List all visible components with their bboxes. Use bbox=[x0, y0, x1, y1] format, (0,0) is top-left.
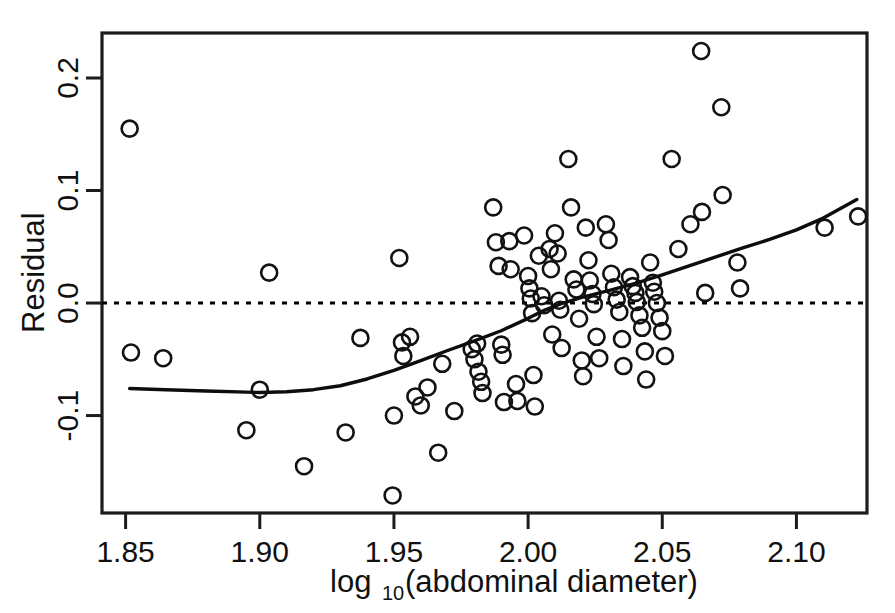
x-axis-title-subscript: 10 bbox=[382, 582, 404, 604]
y-tick-label: 0.1 bbox=[51, 170, 84, 212]
x-axis-title-rest: (abdominal diameter) bbox=[405, 564, 698, 599]
residual-plot-figure: 1.851.901.952.002.052.10 -0.10.00.10.2 l… bbox=[0, 0, 895, 613]
y-tick-label: 0.2 bbox=[51, 57, 84, 99]
x-tick-label: 1.90 bbox=[231, 535, 289, 568]
y-axis-title: Residual bbox=[16, 212, 51, 333]
x-axis-title-base: log bbox=[330, 564, 371, 599]
plot-background bbox=[0, 0, 895, 613]
x-tick-label: 1.85 bbox=[96, 535, 154, 568]
y-tick-label: -0.1 bbox=[51, 390, 84, 442]
y-axis-title-text: Residual bbox=[16, 212, 51, 333]
plot-canvas: 1.851.901.952.002.052.10 -0.10.00.10.2 l… bbox=[0, 0, 895, 613]
x-tick-label: 2.10 bbox=[767, 535, 825, 568]
y-tick-label: 0.0 bbox=[51, 282, 84, 324]
